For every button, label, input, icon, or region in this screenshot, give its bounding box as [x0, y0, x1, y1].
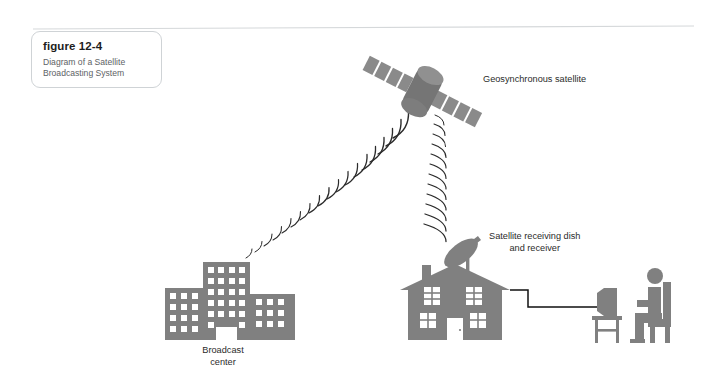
house: [400, 264, 510, 340]
dish-mast: [466, 258, 469, 280]
figure-description-line2: Broadcasting System: [43, 68, 151, 79]
viewer-head: [647, 268, 663, 284]
geosynchronous-satellite: [363, 56, 483, 127]
viewer-arm: [637, 300, 651, 307]
downlink-signal-waves: [424, 115, 446, 242]
tv-stand-top: [592, 316, 622, 320]
label-broadcast-center: Broadcast center: [183, 345, 263, 368]
top-divider-rule: [33, 26, 694, 29]
tv-cabinet: [597, 288, 617, 316]
satellite-solar-panel-upper: [363, 56, 414, 93]
chair-leg-back: [665, 327, 670, 343]
label-receiving-dish-line2: and receiver: [489, 243, 580, 255]
house-doorknob: [459, 329, 461, 331]
label-geosynchronous-satellite: Geosynchronous satellite: [483, 74, 586, 86]
chair-leg-front: [650, 327, 655, 343]
label-receiving-dish-line1: Satellite receiving dish: [489, 231, 580, 243]
label-receiving-dish: Satellite receiving dish and receiver: [489, 231, 580, 254]
figure-title: figure 12-4: [43, 40, 151, 53]
chair-seat: [648, 319, 671, 327]
figure-description: Diagram of a Satellite Broadcasting Syst…: [43, 57, 151, 78]
tv-stand-crossbar: [595, 329, 619, 332]
label-broadcast-center-line1: Broadcast: [183, 345, 263, 357]
figure-label-word: figure: [43, 40, 76, 52]
viewer-foot: [630, 339, 645, 343]
viewer-lower-leg: [635, 320, 644, 342]
uplink-signal-waves: [246, 111, 409, 258]
seated-viewer: [630, 268, 663, 343]
dish-base: [458, 280, 479, 284]
building-center-tall: [203, 262, 250, 340]
figure-number: 12-4: [79, 40, 102, 52]
building-right: [250, 294, 295, 340]
figure-description-line1: Diagram of a Satellite: [43, 57, 151, 68]
figure-page: figure 12-4 Diagram of a Satellite Broad…: [0, 0, 703, 378]
house-door: [447, 318, 463, 340]
television-set: [592, 288, 622, 343]
receiver-to-tv-cable: [510, 290, 597, 307]
label-broadcast-center-line2: center: [183, 357, 263, 369]
satellite-solar-panel-lower: [430, 90, 482, 127]
broadcast-center-buildings: [165, 262, 295, 340]
house-roof: [400, 264, 510, 290]
figure-caption-card: figure 12-4 Diagram of a Satellite Broad…: [31, 31, 162, 88]
